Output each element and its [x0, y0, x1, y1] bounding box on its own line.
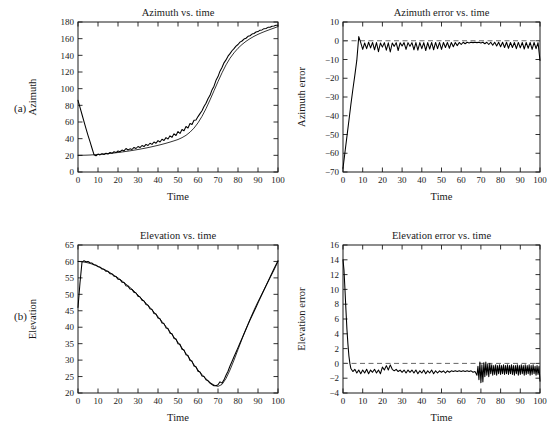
- x-axis-label: Time: [431, 191, 453, 202]
- chart-title: Elevation error vs. time: [392, 230, 491, 241]
- x-tick-label: 90: [254, 175, 264, 185]
- y-tick-label: 16: [330, 240, 340, 250]
- x-tick-label: 100: [271, 175, 285, 185]
- x-tick-label: 10: [358, 396, 368, 406]
- y-tick-label: −50: [325, 130, 340, 140]
- y-tick-label: −2: [329, 373, 339, 383]
- chart-azimuth: Azimuth vs. time010203040506070809010002…: [27, 7, 285, 202]
- x-tick-label: 100: [533, 175, 547, 185]
- y-tick-label: 120: [61, 67, 75, 77]
- y-tick-label: 40: [65, 134, 75, 144]
- y-tick-label: 140: [61, 51, 75, 61]
- x-tick-label: 50: [437, 175, 447, 185]
- x-tick-label: 80: [234, 396, 244, 406]
- x-tick-label: 0: [341, 396, 346, 406]
- x-tick-label: 40: [154, 175, 164, 185]
- chart-elevation: Elevation vs. time0102030405060708090100…: [27, 230, 285, 423]
- x-tick-label: 20: [378, 175, 388, 185]
- plot-frame: [78, 22, 278, 172]
- panel-tag-a: (a): [14, 102, 27, 115]
- panel-tag-b: (b): [14, 310, 27, 323]
- series-line: [343, 37, 540, 169]
- x-tick-label: 60: [457, 175, 467, 185]
- chart-azimuth-error: Azimuth error vs. time010203040506070809…: [296, 7, 547, 202]
- x-tick-label: 50: [174, 175, 184, 185]
- y-tick-label: −4: [329, 388, 339, 398]
- y-tick-label: −40: [325, 111, 340, 121]
- y-axis-label: Elevation error: [296, 287, 307, 351]
- y-tick-label: −10: [325, 55, 340, 65]
- y-tick-label: 0: [335, 36, 340, 46]
- x-tick-label: 80: [496, 175, 506, 185]
- y-tick-label: 50: [65, 290, 75, 300]
- series-line: [78, 27, 278, 156]
- y-tick-label: 40: [65, 322, 75, 332]
- x-tick-label: 40: [417, 175, 427, 185]
- x-tick-label: 70: [476, 396, 486, 406]
- y-tick-label: 55: [65, 273, 75, 283]
- x-tick-label: 70: [476, 175, 486, 185]
- x-tick-label: 0: [76, 175, 81, 185]
- tracking-performance-figure: (a) (b) Azimuth vs. time0102030405060708…: [0, 0, 557, 443]
- y-tick-label: 0: [70, 167, 75, 177]
- x-tick-label: 0: [76, 396, 81, 406]
- x-axis-label: Time: [431, 412, 453, 423]
- y-tick-label: 4: [335, 329, 340, 339]
- x-tick-label: 100: [271, 396, 285, 406]
- chart-elevation-error: Elevation error vs. time0102030405060708…: [296, 230, 547, 423]
- x-tick-label: 60: [194, 175, 204, 185]
- y-tick-label: 160: [61, 34, 75, 44]
- series-line: [343, 260, 540, 383]
- y-tick-label: 180: [61, 17, 75, 27]
- y-tick-label: 45: [65, 306, 75, 316]
- chart-title: Elevation vs. time: [140, 230, 216, 241]
- y-tick-label: 0: [335, 359, 340, 369]
- x-tick-label: 70: [214, 396, 224, 406]
- x-tick-label: 90: [516, 175, 526, 185]
- x-tick-label: 70: [214, 175, 224, 185]
- plot-frame: [78, 245, 278, 393]
- y-tick-label: 14: [330, 255, 340, 265]
- y-tick-label: 100: [61, 84, 75, 94]
- plot-frame: [343, 22, 540, 172]
- x-tick-label: 60: [457, 396, 467, 406]
- x-tick-label: 10: [94, 175, 104, 185]
- x-tick-label: 100: [533, 396, 547, 406]
- x-tick-label: 0: [341, 175, 346, 185]
- y-tick-label: 6: [335, 314, 340, 324]
- x-tick-label: 80: [496, 396, 506, 406]
- y-axis-label: Azimuth: [27, 78, 38, 115]
- x-tick-label: 30: [398, 175, 408, 185]
- x-tick-label: 30: [398, 396, 408, 406]
- series-line: [78, 25, 278, 156]
- y-tick-label: 8: [335, 299, 340, 309]
- x-tick-label: 10: [94, 396, 104, 406]
- y-axis-label: Elevation: [27, 298, 38, 339]
- y-tick-label: 35: [65, 339, 75, 349]
- y-tick-label: 80: [65, 101, 75, 111]
- y-tick-label: 30: [65, 355, 75, 365]
- chart-title: Azimuth vs. time: [142, 7, 215, 18]
- x-axis-label: Time: [167, 412, 189, 423]
- x-tick-label: 40: [154, 396, 164, 406]
- y-tick-label: −60: [325, 148, 340, 158]
- y-tick-label: 10: [330, 285, 340, 295]
- x-tick-label: 20: [114, 175, 124, 185]
- x-tick-label: 90: [254, 396, 264, 406]
- x-tick-label: 50: [437, 396, 447, 406]
- x-tick-label: 10: [358, 175, 368, 185]
- y-tick-label: 65: [65, 240, 75, 250]
- x-axis-label: Time: [167, 191, 189, 202]
- y-tick-label: −30: [325, 92, 340, 102]
- y-axis-label: Azimuth error: [296, 67, 307, 127]
- y-tick-label: 2: [335, 344, 340, 354]
- x-tick-label: 90: [516, 396, 526, 406]
- x-tick-label: 20: [378, 396, 388, 406]
- y-tick-label: −20: [325, 73, 340, 83]
- series-line: [78, 261, 278, 386]
- x-tick-label: 30: [134, 396, 144, 406]
- y-tick-label: −70: [325, 167, 340, 177]
- x-tick-label: 40: [417, 396, 427, 406]
- y-tick-label: 20: [65, 151, 75, 161]
- x-tick-label: 80: [234, 175, 244, 185]
